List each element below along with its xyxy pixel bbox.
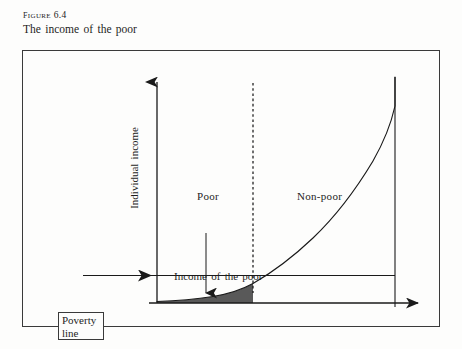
region-label-poor: Poor [197, 190, 219, 202]
annotation-income-of-the-poor: Income of the poor [174, 270, 263, 282]
region-label-non-poor: Non-poor [297, 190, 342, 202]
figure-page: Figure 6.4 The income of the poor [0, 0, 462, 349]
shaded-area-income-of-the-poor [157, 284, 253, 304]
figure-frame: Individual income Poor Non-poor Income o… [22, 50, 440, 327]
income-distribution-chart [23, 51, 439, 326]
figure-number: Figure 6.4 [23, 8, 423, 21]
poverty-line-callout-line2: line [62, 327, 103, 340]
y-axis-label: Individual income [128, 127, 140, 209]
poverty-line-callout-box: Poverty line [58, 312, 104, 340]
figure-caption: Figure 6.4 The income of the poor [23, 8, 423, 37]
figure-title: The income of the poor [23, 22, 423, 37]
poverty-line-callout-line1: Poverty [62, 314, 103, 327]
income-curve [157, 77, 395, 302]
